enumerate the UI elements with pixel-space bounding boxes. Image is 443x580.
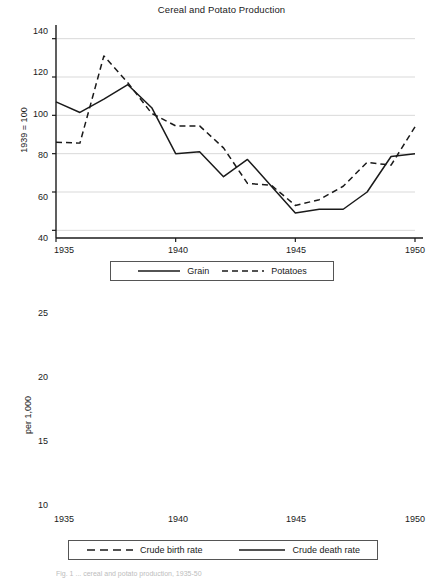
legend-swatch-dashed — [86, 545, 134, 555]
legend-label: Potatoes — [271, 266, 307, 276]
figure-caption: Fig. 1 ... cereal and potato production,… — [56, 570, 436, 580]
legend-entry-crude-death-rate: Crude death rate — [238, 545, 360, 555]
legend-entry-grain: Grain — [137, 266, 209, 276]
legend-entry-potatoes: Potatoes — [221, 266, 307, 276]
legend-swatch-dashed — [221, 266, 265, 276]
legend-entry-crude-birth-rate: Crude birth rate — [86, 545, 203, 555]
legend-label: Crude birth rate — [140, 545, 203, 555]
legend-bottom: Crude birth rate Crude death rate — [68, 540, 378, 560]
legend-label: Grain — [187, 266, 209, 276]
chart-panel-vital-rates: per 1,000 25 20 15 10 1935 1940 1945 195… — [0, 290, 443, 580]
plot-area-top — [0, 0, 443, 290]
plot-area-bottom — [0, 290, 443, 580]
legend-swatch-solid — [238, 545, 286, 555]
legend-top: Grain Potatoes — [110, 261, 334, 281]
figure-root: Cereal and Potato Production 1939 = 100 … — [0, 0, 443, 580]
chart-panel-cereal-potato: Cereal and Potato Production 1939 = 100 … — [0, 0, 443, 290]
legend-label: Crude death rate — [292, 545, 360, 555]
legend-swatch-solid — [137, 266, 181, 276]
